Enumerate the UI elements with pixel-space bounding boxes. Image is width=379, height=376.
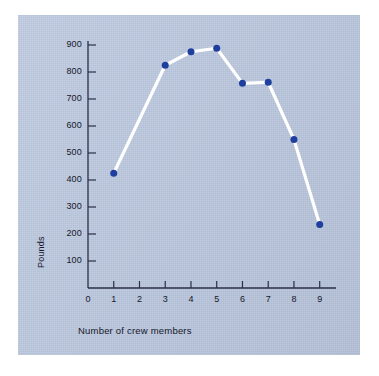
y-tick-label: 200	[56, 228, 82, 238]
x-tick-label: 4	[184, 294, 198, 304]
data-point-marker	[213, 45, 220, 52]
data-point-marker	[316, 221, 323, 228]
figure-page: 1002003004005006007008009000123456789 Po…	[0, 0, 379, 376]
line-chart-plot	[0, 0, 379, 376]
y-tick-label: 100	[56, 255, 82, 265]
y-tick-label: 300	[56, 201, 82, 211]
x-tick-label: 8	[287, 294, 301, 304]
y-tick-label: 400	[56, 174, 82, 184]
x-tick-label: 2	[132, 294, 146, 304]
x-tick-label: 0	[81, 294, 95, 304]
x-axis-title: Number of crew members	[78, 325, 192, 336]
y-axis-title: Pounds	[36, 236, 46, 268]
x-tick-label: 5	[210, 294, 224, 304]
x-tick-label: 7	[261, 294, 275, 304]
data-point-marker	[162, 62, 169, 69]
x-tick-label: 1	[107, 294, 121, 304]
data-point-marker	[290, 136, 297, 143]
y-tick-label: 500	[56, 147, 82, 157]
y-tick-label: 700	[56, 93, 82, 103]
data-point-marker	[110, 170, 117, 177]
y-tick-label: 900	[56, 39, 82, 49]
x-tick-label: 3	[158, 294, 172, 304]
data-point-marker	[239, 80, 246, 87]
x-tick-label: 6	[235, 294, 249, 304]
data-point-marker	[187, 48, 194, 55]
data-series	[110, 45, 323, 228]
data-point-marker	[265, 79, 272, 86]
series-line	[114, 48, 320, 224]
y-tick-label: 600	[56, 120, 82, 130]
y-tick-label: 800	[56, 66, 82, 76]
axes	[88, 41, 336, 288]
x-tick-label: 9	[313, 294, 327, 304]
